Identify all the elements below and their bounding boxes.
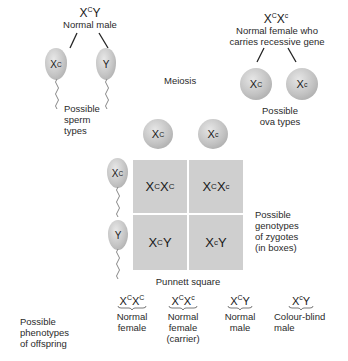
sperm-tail	[114, 187, 122, 217]
offspring-genotype: XCXc	[158, 294, 208, 307]
offspring-genotype: XCXC	[107, 294, 157, 307]
punnett-cell-r2c1: XCY	[133, 215, 187, 270]
father-split-lines	[55, 30, 125, 52]
offspring-normal-male: XCY Normal male	[218, 294, 262, 333]
ovum-xC: XC	[240, 68, 272, 100]
punnett-cell-r1c1: XCXC	[133, 160, 187, 213]
ova-types-label: Possible ova types	[240, 105, 320, 127]
offspring-genotype: XCY	[218, 294, 262, 307]
father-label: Normal male	[50, 19, 130, 30]
father-genotype: XCY	[70, 6, 110, 20]
genotypes-label: Possible genotypes of zygotes (in boxes)	[255, 209, 335, 253]
mother-label: Normal female who carries recessive gene	[222, 25, 332, 47]
offspring-genotype: XcY	[268, 294, 334, 307]
sperm-tail	[114, 249, 122, 279]
meiosis-label: Meiosis	[164, 75, 196, 86]
ovum-xc: Xc	[286, 68, 318, 100]
offspring-carrier-female: XCXc Normal female (carrier)	[158, 294, 208, 344]
mother-genotype: XCXc	[246, 12, 306, 26]
punnett-cell-r1c2: XCXc	[189, 160, 243, 213]
mother-split-lines	[250, 46, 310, 68]
sperm-tail	[53, 79, 61, 111]
sperm-head: Y	[108, 220, 128, 250]
punnett-cell-r2c2: XcY	[189, 215, 243, 270]
offspring-normal-female: XCXC Normal female	[107, 294, 157, 333]
sperm-head: XC	[45, 48, 67, 80]
sperm-types-label: Possible sperm types	[64, 103, 114, 136]
punnett-square-title: Punnett square	[133, 276, 243, 287]
phenotypes-label: Possible phenotypes of offspring	[20, 316, 100, 349]
punnett-col-header-xc: Xc	[198, 119, 228, 149]
offspring-colour-blind-male: XcY Colour-blind male	[268, 294, 334, 333]
sperm-head: Y	[96, 48, 116, 80]
punnett-col-header-xC: XC	[143, 119, 173, 149]
sperm-head: XC	[107, 158, 128, 188]
